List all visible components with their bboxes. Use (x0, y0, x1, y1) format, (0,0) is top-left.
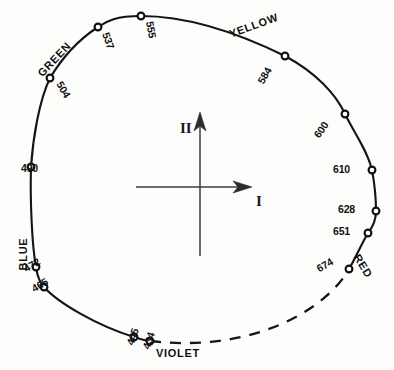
wavelength-point-490: 490 (21, 162, 38, 174)
wavelength-label-584: 584 (255, 65, 274, 86)
purple-line-dashed-path (150, 269, 349, 343)
figure-canvas: I II YELLOWGREENBLUEREDVIOLET 5555375044… (0, 0, 394, 370)
wavelength-point-504: 504 (47, 75, 74, 100)
wavelength-point-651: 651 (333, 225, 371, 237)
wavelength-marker-504 (47, 75, 54, 82)
wavelength-label-651: 651 (333, 225, 350, 237)
wavelength-label-600: 600 (311, 119, 331, 140)
wavelength-label-434: 434 (140, 330, 157, 350)
wavelength-label-674: 674 (314, 255, 335, 274)
wavelength-point-674: 674 (314, 255, 352, 274)
wavelength-marker-537 (95, 24, 102, 31)
wavelength-marker-610 (369, 167, 376, 174)
wavelength-label-610: 610 (333, 163, 350, 175)
hue-label-violet: VIOLET (156, 347, 200, 359)
hue-label-red: RED (352, 252, 376, 280)
wavelength-label-445: 445 (124, 326, 141, 346)
wavelength-marker-600 (342, 111, 349, 118)
wavelength-marker-628 (373, 208, 380, 215)
wavelength-point-610: 610 (333, 163, 375, 175)
chromaticity-diagram: I II YELLOWGREENBLUEREDVIOLET 5555375044… (0, 0, 394, 370)
wavelength-label-490: 490 (21, 162, 38, 174)
axis-label-ii: II (180, 120, 192, 136)
hue-label-yellow: YELLOW (227, 11, 279, 40)
wavelength-label-555: 555 (144, 20, 159, 39)
wavelength-point-584: 584 (255, 53, 289, 86)
wavelength-label-628: 628 (338, 203, 355, 215)
wavelength-point-445: 445 (124, 326, 141, 346)
wavelength-point-537: 537 (95, 24, 118, 51)
wavelength-point-600: 600 (311, 111, 348, 140)
wavelength-marker-584 (282, 53, 289, 60)
wavelength-point-628: 628 (338, 203, 379, 215)
wavelength-label-537: 537 (100, 31, 117, 51)
wavelength-point-434: 434 (140, 330, 157, 350)
axis-group: I II (136, 112, 262, 256)
wavelength-marker-555 (138, 13, 145, 20)
wavelength-marker-674 (346, 266, 353, 273)
axis-label-i: I (256, 193, 262, 209)
wavelength-marker-651 (365, 230, 372, 237)
wavelength-label-504: 504 (54, 79, 73, 100)
